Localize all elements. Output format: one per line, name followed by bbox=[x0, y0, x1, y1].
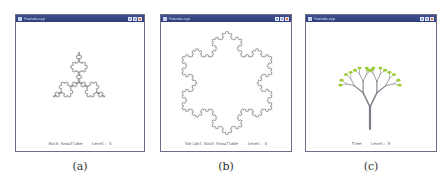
title-bar[interactable]: Fractals.cyp bbox=[161, 15, 291, 22]
close-button[interactable] bbox=[285, 17, 289, 21]
window-title: Fractals.cyp bbox=[314, 17, 419, 21]
title-bar[interactable]: Fractals.cyp bbox=[306, 15, 436, 22]
status-label: Koch Snowflake Level: 4 bbox=[16, 141, 144, 146]
minimize-button[interactable] bbox=[128, 17, 132, 21]
window-title: Fractals.cyp bbox=[169, 17, 274, 21]
app-icon bbox=[18, 17, 22, 21]
drawing-canvas[interactable]: Koch Snowflake Level: 4 bbox=[16, 22, 144, 151]
status-label: Tree Level: 5 bbox=[306, 141, 436, 146]
maximize-button[interactable] bbox=[133, 17, 137, 21]
window-variant-koch-snowflake: Fractals.cyp Variant Koch Snowflake Leve… bbox=[160, 14, 292, 152]
caption-c: (c) bbox=[351, 160, 391, 173]
close-button[interactable] bbox=[138, 17, 142, 21]
app-icon bbox=[163, 17, 167, 21]
minimize-button[interactable] bbox=[275, 17, 279, 21]
maximize-button[interactable] bbox=[280, 17, 284, 21]
window-koch-snowflake: Fractals.cyp Koch Snowflake Level: 4 bbox=[15, 14, 145, 152]
title-bar[interactable]: Fractals.cyp bbox=[16, 15, 144, 22]
tree-drawing bbox=[306, 22, 436, 152]
caption-a: (a) bbox=[60, 160, 100, 173]
window-title: Fractals.cyp bbox=[24, 17, 127, 21]
drawing-canvas[interactable]: Variant Koch Snowflake Level: 4 bbox=[161, 22, 291, 151]
window-tree: Fractals.cyp Tree Level: 5 bbox=[305, 14, 437, 152]
koch-snowflake-drawing bbox=[16, 22, 144, 152]
close-button[interactable] bbox=[430, 17, 434, 21]
drawing-canvas[interactable]: Tree Level: 5 bbox=[306, 22, 436, 151]
variant-koch-snowflake-drawing bbox=[161, 22, 291, 152]
maximize-button[interactable] bbox=[425, 17, 429, 21]
caption-b: (b) bbox=[206, 160, 246, 173]
app-icon bbox=[308, 17, 312, 21]
minimize-button[interactable] bbox=[420, 17, 424, 21]
status-label: Variant Koch Snowflake Level: 4 bbox=[161, 141, 291, 146]
